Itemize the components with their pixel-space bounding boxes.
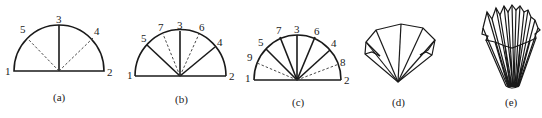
label-3: 3 bbox=[56, 13, 62, 25]
caption-d: (d) bbox=[392, 96, 405, 109]
fold-line-6 bbox=[297, 37, 315, 80]
figure-c: 1 2 3 4 5 6 7 8 9 (c) bbox=[245, 23, 350, 109]
fold-line-5 bbox=[27, 38, 59, 71]
label-5: 5 bbox=[20, 23, 26, 35]
fold-crease bbox=[398, 40, 435, 82]
label-8: 8 bbox=[340, 56, 346, 68]
figure-e: (e) bbox=[482, 5, 540, 109]
caption-e: (e) bbox=[505, 96, 518, 109]
label-7: 7 bbox=[158, 21, 164, 33]
fold-crease bbox=[398, 24, 401, 82]
label-4: 4 bbox=[331, 37, 337, 49]
fold-flap bbox=[366, 42, 380, 56]
label-9: 9 bbox=[247, 51, 253, 63]
label-1: 1 bbox=[245, 72, 251, 84]
fold-line-7 bbox=[163, 34, 180, 76]
fold-crease bbox=[398, 28, 423, 82]
label-1: 1 bbox=[127, 69, 133, 81]
label-3: 3 bbox=[177, 19, 183, 31]
fold-line-4 bbox=[180, 47, 215, 76]
folding-diagram: 1 2 3 4 5 (a) 1 2 3 4 5 6 7 (b) 1 2 bbox=[0, 0, 542, 118]
label-1: 1 bbox=[5, 65, 11, 77]
label-3: 3 bbox=[294, 23, 300, 35]
caption-c: (c) bbox=[292, 96, 305, 109]
fold-flap bbox=[420, 52, 432, 55]
label-7: 7 bbox=[276, 24, 282, 36]
figure-a: 1 2 3 4 5 (a) bbox=[5, 13, 113, 104]
fold-line-5 bbox=[266, 49, 297, 80]
label-6: 6 bbox=[314, 25, 320, 37]
figure-b: 1 2 3 4 5 6 7 (b) bbox=[127, 19, 235, 106]
label-4: 4 bbox=[94, 25, 100, 37]
fold-crease bbox=[366, 42, 398, 82]
caption-b: (b) bbox=[175, 93, 188, 106]
figure-d: (d) bbox=[365, 24, 435, 109]
fold-line-4 bbox=[59, 38, 93, 71]
fold-line-4 bbox=[297, 50, 330, 80]
label-5: 5 bbox=[258, 36, 264, 48]
label-6: 6 bbox=[199, 21, 205, 33]
label-2: 2 bbox=[344, 74, 350, 86]
label-5: 5 bbox=[141, 32, 147, 44]
fold-line-6 bbox=[180, 34, 199, 76]
caption-a: (a) bbox=[53, 91, 66, 104]
label-2: 2 bbox=[107, 66, 113, 78]
label-4: 4 bbox=[217, 36, 223, 48]
label-2: 2 bbox=[229, 70, 235, 82]
fold-line-5 bbox=[147, 45, 180, 76]
